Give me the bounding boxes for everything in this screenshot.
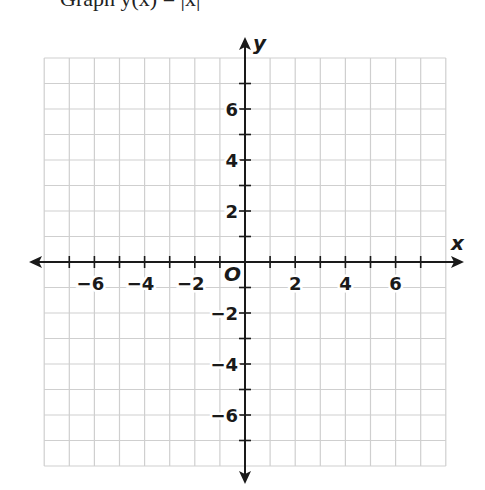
x-tick-label: −4: [127, 273, 155, 294]
y-tick-label: −2: [210, 303, 238, 324]
y-axis-label: y: [253, 31, 267, 55]
origin-label: O: [224, 262, 241, 286]
y-tick-label: 6: [225, 99, 238, 120]
y-tick-label: 4: [225, 150, 238, 171]
x-tick-label: 2: [289, 273, 302, 294]
y-tick-label: −4: [210, 354, 238, 375]
x-tick-label: 6: [389, 273, 402, 294]
y-tick-label: 2: [225, 201, 238, 222]
coordinate-plane: −6−4−2246642−2−4−6 x y O: [0, 0, 485, 490]
x-tick-label: −2: [177, 273, 205, 294]
y-tick-label: −6: [210, 405, 238, 426]
x-axis-label: x: [450, 231, 465, 255]
x-tick-label: 4: [339, 273, 352, 294]
x-tick-label: −6: [77, 273, 105, 294]
